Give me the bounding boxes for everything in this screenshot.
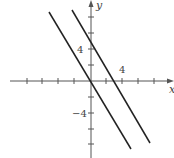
x-axis-label: x	[169, 83, 174, 96]
y-axis-arrow-icon	[89, 0, 94, 7]
y-tick-label-4: 4	[77, 44, 83, 55]
x-tick-label-4: 4	[119, 64, 125, 75]
graph: y x 4 4 −4	[0, 0, 174, 158]
line-2	[72, 10, 150, 143]
y-axis-label: y	[95, 0, 103, 12]
y-tick-label-neg4: −4	[72, 108, 87, 119]
